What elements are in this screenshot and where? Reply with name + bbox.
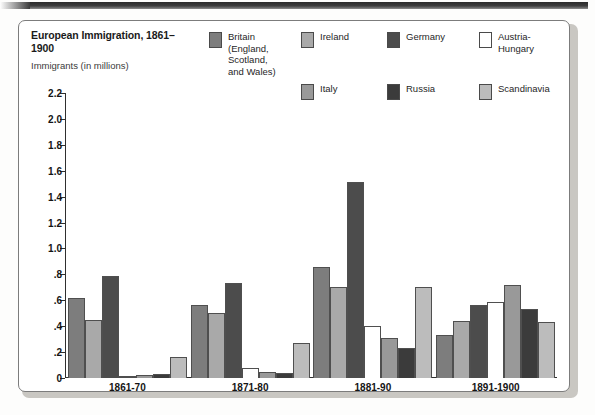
plot-area: 2.22.01.81.61.41.21.0.8.6.4.20	[65, 93, 557, 378]
bar[interactable]	[436, 335, 453, 378]
legend-swatch-icon	[301, 32, 314, 48]
legend-swatch-icon	[479, 32, 492, 48]
bar[interactable]	[153, 374, 170, 378]
chart-legend: Britain (England, Scotland, and Wales)Ir…	[209, 31, 561, 100]
bar[interactable]	[398, 348, 415, 378]
x-axis-labels: 1861-701871-801881-901891-1900	[66, 380, 557, 392]
legend-item[interactable]: Germany	[387, 31, 479, 77]
y-axis-tick-label: 1.2	[48, 217, 62, 228]
bar[interactable]	[208, 313, 225, 378]
bar-group	[66, 93, 189, 378]
bar-groups	[66, 93, 557, 378]
bar[interactable]	[259, 372, 276, 378]
bar[interactable]	[85, 320, 102, 378]
legend-item-label: Germany	[406, 31, 445, 43]
y-axis-tick-label: 1.4	[48, 191, 62, 202]
legend-item-label: Britain (England, Scotland, and Wales)	[228, 31, 276, 77]
bar-group	[434, 93, 557, 378]
y-axis-tick-label: 1.8	[48, 139, 62, 150]
bar[interactable]	[347, 182, 364, 378]
x-axis-group-label: 1871-80	[189, 380, 312, 392]
x-axis-group-label: 1861-70	[66, 380, 189, 392]
bar[interactable]	[453, 321, 470, 378]
top-decorative-rule-fade	[0, 2, 30, 9]
y-axis-tick-label: .6	[54, 295, 62, 306]
y-axis-tick-label: .4	[54, 321, 62, 332]
chart-title: European Immigration, 1861–1900	[31, 29, 191, 55]
legend-item-label: Ireland	[320, 31, 349, 43]
bar[interactable]	[470, 305, 487, 378]
bar[interactable]	[330, 287, 347, 378]
bar[interactable]	[521, 309, 538, 378]
bar[interactable]	[313, 267, 330, 378]
y-axis-tick-label: 0	[56, 373, 62, 384]
bar[interactable]	[119, 376, 136, 378]
bar[interactable]	[68, 298, 85, 378]
legend-item-label: Austria-Hungary	[498, 31, 561, 54]
legend-item[interactable]: Ireland	[301, 31, 387, 77]
y-axis-tick-label: .2	[54, 347, 62, 358]
y-axis-tick-label: 2.2	[48, 88, 62, 99]
bar[interactable]	[225, 283, 242, 378]
bar-group	[189, 93, 312, 378]
chart-card: European Immigration, 1861–1900 Immigran…	[18, 20, 570, 392]
bar[interactable]	[276, 373, 293, 378]
bar[interactable]	[364, 326, 381, 378]
y-axis-caption: Immigrants (in millions)	[31, 60, 191, 72]
y-axis-tick-label: .8	[54, 269, 62, 280]
bar[interactable]	[538, 322, 555, 378]
x-axis-group-label: 1891-1900	[434, 380, 557, 392]
bar[interactable]	[487, 302, 504, 378]
legend-item[interactable]: Austria-Hungary	[479, 31, 561, 77]
bar[interactable]	[381, 338, 398, 378]
bar[interactable]	[415, 287, 432, 378]
y-axis-tick-label: 2.0	[48, 113, 62, 124]
y-axis-tick-label: 1.6	[48, 165, 62, 176]
title-block: European Immigration, 1861–1900 Immigran…	[31, 29, 191, 72]
y-axis-tick-label: 1.0	[48, 243, 62, 254]
top-decorative-rule	[28, 2, 588, 9]
legend-swatch-icon	[209, 32, 222, 48]
bar[interactable]	[102, 276, 119, 378]
bar[interactable]	[242, 368, 259, 378]
bar[interactable]	[293, 343, 310, 378]
bar[interactable]	[170, 357, 187, 378]
bar[interactable]	[191, 305, 208, 378]
legend-swatch-icon	[387, 32, 400, 48]
bar-group	[312, 93, 435, 378]
bar[interactable]	[504, 285, 521, 378]
x-axis-group-label: 1881-90	[312, 380, 435, 392]
legend-item[interactable]: Britain (England, Scotland, and Wales)	[209, 31, 301, 77]
bar[interactable]	[136, 375, 153, 378]
chart-page: European Immigration, 1861–1900 Immigran…	[0, 0, 595, 415]
